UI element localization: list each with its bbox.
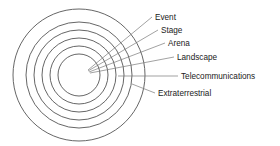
concentric-rings-diagram: Event Stage Arena Landscape Telecommunic… <box>0 0 280 146</box>
leader-line-arena <box>89 43 165 72</box>
leader-line-extraterrestrial <box>132 84 155 93</box>
label-group: Event Stage Arena Landscape Telecommunic… <box>155 13 255 98</box>
ring-event <box>58 54 100 96</box>
ring-group <box>13 9 145 141</box>
ring-landscape <box>34 30 124 120</box>
label-stage: Stage <box>161 26 183 35</box>
ring-arena <box>42 38 116 112</box>
ring-stage <box>50 46 108 104</box>
label-arena: Arena <box>168 39 190 48</box>
label-extraterrestrial: Extraterrestrial <box>158 89 211 98</box>
diagram-canvas: Event Stage Arena Landscape Telecommunic… <box>0 0 280 146</box>
label-landscape: Landscape <box>177 53 218 62</box>
label-event: Event <box>155 13 177 22</box>
label-telecommunications: Telecommunications <box>181 72 255 81</box>
ring-extraterrestrial <box>13 9 145 141</box>
